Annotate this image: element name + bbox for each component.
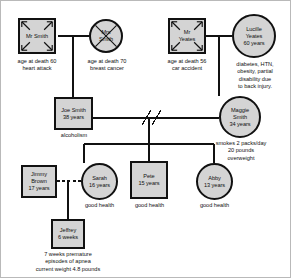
caption-pete: good health	[123, 202, 176, 209]
caption-line: good health	[135, 202, 164, 208]
person-name-line2-mrs-smith: Smith	[99, 36, 113, 43]
person-node-abby[interactable]: Abby 13 years	[196, 163, 233, 200]
caption-line: age at death 70	[88, 58, 127, 64]
caption-abby: good health	[188, 202, 241, 209]
caption-sarah: good health	[73, 202, 126, 209]
person-name-line1-maggie: Maggie	[231, 107, 249, 114]
person-name-line2-maggie: Smith	[233, 114, 247, 121]
person-age-lucille: 60 years	[243, 40, 264, 47]
caption-line: episodes of apnea	[45, 258, 91, 264]
caption-jeffrey: 7 weeks premature episodes of apnea curr…	[9, 251, 127, 273]
caption-maggie-smith: smokes 2 packs/day 20 pounds overweight	[205, 140, 277, 162]
caption-line: car accident	[172, 65, 202, 71]
caption-line: age at death 60	[18, 58, 57, 64]
caption-joe-smith: alcoholism	[48, 132, 100, 139]
person-name-sarah: Sarah	[92, 175, 107, 182]
person-name-joe-smith: Joe Smith	[61, 107, 85, 114]
person-age-sarah: 16 years	[89, 182, 110, 189]
caption-line: current weight 4.8 pounds	[36, 266, 100, 272]
person-age-maggie: 34 years	[229, 121, 250, 128]
person-name-line2-lucille: Yeates	[246, 33, 263, 40]
person-name-line2-mr-yeates: Yeates	[179, 36, 196, 43]
person-name-jeffrey: Jeffrey	[60, 227, 76, 234]
caption-line: age at death 56	[168, 58, 207, 64]
person-node-mrs-smith[interactable]: Mrs Smith	[89, 19, 123, 53]
caption-line: overweight	[227, 155, 254, 161]
caption-mr-yeates: age at death 56 car accident	[152, 58, 222, 73]
genogram-canvas: Mr Smith age at death 60 heart attack Mr…	[0, 0, 291, 278]
caption-line: diabetes, HTN,	[236, 61, 273, 67]
caption-lucille-yeates: diabetes, HTN, obesity, partial disabili…	[223, 61, 287, 91]
person-name-pete: Pete	[143, 173, 154, 180]
caption-line: breast cancer	[90, 65, 124, 71]
person-name-line1-lucille: Lucille	[246, 26, 262, 33]
person-age-jeffrey: 6 weeks	[58, 234, 78, 241]
caption-line: 7 weeks premature	[44, 251, 92, 257]
person-node-mr-yeates[interactable]: Mr Yeates	[168, 18, 206, 54]
person-age-joe-smith: 38 years	[63, 114, 84, 121]
caption-line: 20 pounds	[228, 147, 254, 153]
person-name-line1-mr-yeates: Mr	[184, 29, 190, 36]
person-age-jimmy: 17 years	[28, 185, 49, 192]
caption-line: good health	[200, 202, 229, 208]
person-name-mr-smith: Mr Smith	[26, 33, 48, 40]
caption-mrs-smith: age at death 70 breast cancer	[71, 58, 143, 73]
person-node-joe-smith[interactable]: Joe Smith 38 years	[54, 97, 93, 130]
caption-line: smokes 2 packs/day	[216, 140, 267, 146]
person-node-pete[interactable]: Pete 15 years	[130, 161, 168, 199]
person-node-jimmy-brown[interactable]: Jimmy Brown 17 years	[21, 165, 57, 198]
person-node-mr-smith[interactable]: Mr Smith	[18, 18, 56, 54]
person-name-line1-mrs-smith: Mrs	[101, 29, 110, 36]
caption-line: to back injury.	[238, 83, 272, 89]
caption-line: obesity, partial	[237, 68, 273, 74]
person-name-abby: Abby	[208, 175, 221, 182]
person-name-line2-jimmy: Brown	[31, 178, 47, 185]
person-node-maggie-smith[interactable]: Maggie Smith 34 years	[219, 96, 261, 138]
person-name-line1-jimmy: Jimmy	[31, 171, 47, 178]
person-age-pete: 15 years	[138, 180, 159, 187]
person-node-sarah[interactable]: Sarah 16 years	[81, 163, 118, 200]
person-node-jeffrey[interactable]: Jeffrey 6 weeks	[51, 219, 85, 249]
caption-line: disability due	[239, 76, 271, 82]
caption-line: heart attack	[22, 65, 51, 71]
caption-line: good health	[85, 202, 114, 208]
caption-line: alcoholism	[61, 132, 87, 138]
caption-mr-smith: age at death 60 heart attack	[3, 58, 71, 73]
person-age-abby: 13 years	[204, 182, 225, 189]
person-node-lucille-yeates[interactable]: Lucille Yeates 60 years	[232, 14, 276, 58]
